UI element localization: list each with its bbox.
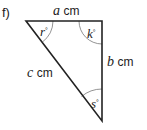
angle-k-degree: ° [93,29,96,36]
side-a-unit: cm [63,4,79,18]
angle-k-variable: k [87,26,93,41]
angle-s-label: s° [91,97,99,110]
angle-k-label: k° [87,27,96,40]
side-a-variable: a [53,3,60,18]
side-c-unit: cm [37,66,53,80]
side-b-unit: cm [117,55,133,69]
side-b-variable: b [107,54,114,69]
triangle-figure: f) a cm b cm c cm r° k° s° [0,0,147,130]
side-a-label: a cm [53,4,79,18]
side-c-label: c cm [27,66,53,80]
angle-r-degree: ° [45,27,48,34]
side-b-label: b cm [107,55,133,69]
angle-r-label: r° [40,25,48,38]
side-c-variable: c [27,65,33,80]
angle-s-degree: ° [96,99,99,106]
